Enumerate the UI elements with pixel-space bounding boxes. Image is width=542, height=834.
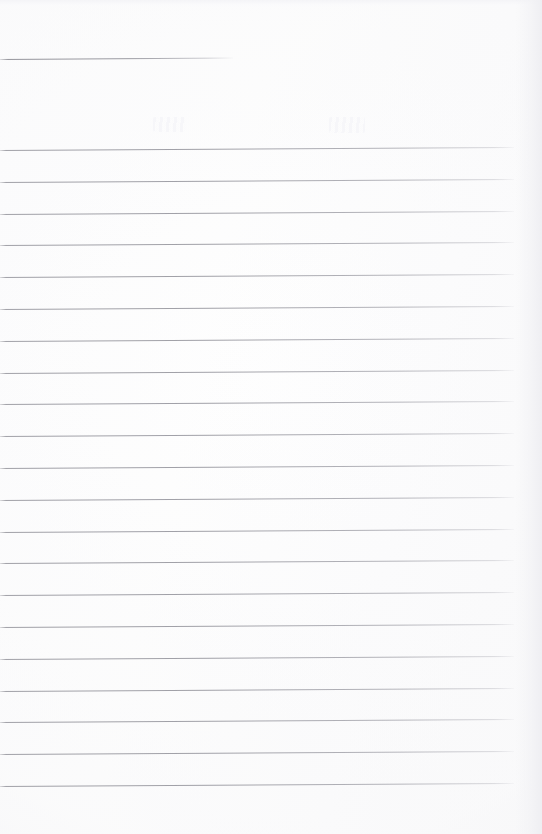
scanned-page <box>0 0 542 834</box>
ruled-line <box>0 370 514 374</box>
ruled-line <box>0 719 514 723</box>
ruled-line <box>0 242 514 246</box>
ruled-line <box>0 624 514 628</box>
ruled-line <box>0 433 514 437</box>
paper-texture <box>0 0 542 834</box>
scan-edge-right <box>516 0 542 834</box>
ghost-mark <box>153 117 186 132</box>
ruled-line <box>0 751 514 755</box>
ruled-line <box>0 688 514 692</box>
heading-rule <box>0 58 233 60</box>
ruled-line <box>0 656 514 660</box>
ghost-mark <box>329 117 365 133</box>
ruled-line <box>0 560 514 564</box>
ruled-line <box>0 465 514 469</box>
ruled-line <box>0 147 514 151</box>
ruled-line <box>0 592 514 596</box>
ruled-line <box>0 306 514 310</box>
ruled-line <box>0 179 514 183</box>
ruled-line <box>0 274 514 278</box>
scan-edge-top <box>0 0 542 9</box>
ruled-line <box>0 338 514 342</box>
ruled-line <box>0 401 514 405</box>
ruled-line <box>0 529 514 533</box>
ruled-line <box>0 211 514 215</box>
ruled-line <box>0 497 514 501</box>
bottom-margin <box>0 787 542 834</box>
